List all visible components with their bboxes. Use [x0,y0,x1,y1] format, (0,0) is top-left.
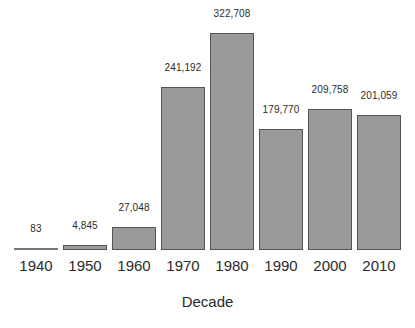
x-tick-1990: 1990 [253,255,309,277]
x-tick-1980: 1980 [204,255,260,277]
bar-rect[interactable] [63,245,107,250]
x-tick-2000: 2000 [302,255,358,277]
bar-value-label: 201,059 [335,90,415,101]
bar-group-2000[interactable]: 209,758 [308,0,352,250]
x-axis-title: Decade [0,292,415,312]
x-axis-tick-labels: 1940 1950 1960 1970 1980 1990 2000 2010 [0,255,415,281]
bar-rect[interactable] [14,248,58,250]
bar-rect[interactable] [357,115,401,250]
bar-group-1940[interactable]: 83 [14,0,58,250]
x-tick-1940: 1940 [8,255,64,277]
x-tick-1950: 1950 [57,255,113,277]
x-tick-2010: 2010 [351,255,407,277]
bar-rect[interactable] [161,87,205,250]
plot-area: 83 4,845 27,048 241,192 322,708 179,770 … [0,0,415,250]
bar-group-1980[interactable]: 322,708 [210,0,254,250]
bar-group-1990[interactable]: 179,770 [259,0,303,250]
x-tick-1960: 1960 [106,255,162,277]
x-tick-1970: 1970 [155,255,211,277]
bar-group-1960[interactable]: 27,048 [112,0,156,250]
bar-group-2010[interactable]: 201,059 [357,0,401,250]
bar-rect[interactable] [112,227,156,250]
bar-rect[interactable] [210,33,254,250]
bar-chart: 83 4,845 27,048 241,192 322,708 179,770 … [0,0,415,328]
bar-rect[interactable] [259,129,303,250]
bar-rect[interactable] [308,109,352,250]
bar-group-1970[interactable]: 241,192 [161,0,205,250]
